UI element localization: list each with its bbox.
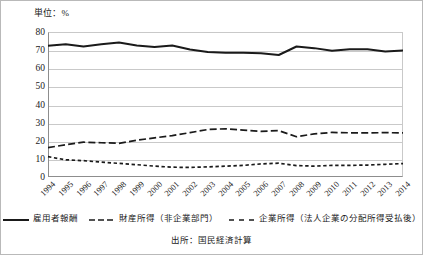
y-tick-label: 20 <box>3 136 45 146</box>
chart-legend: 雇用者報酬財産所得（非企業部門）企業所得（法人企業の分配所得受払後） <box>1 211 422 223</box>
legend-item-3[interactable]: 企業所得（法人企業の分配所得受払後） <box>229 211 421 223</box>
unit-label: 単位：% <box>34 6 69 19</box>
legend-item-2[interactable]: 財産所得（非企業部門） <box>89 211 218 223</box>
x-axis-tick-labels: 1994199519961997199819992000200120022003… <box>48 179 403 209</box>
series-line-3 <box>48 157 403 168</box>
legend-label: 雇用者報酬 <box>33 211 78 223</box>
legend-label: 企業所得（法人企業の分配所得受払後） <box>259 211 421 223</box>
y-tick-label: 80 <box>3 27 45 37</box>
series-line-2 <box>48 129 403 148</box>
series-lines <box>48 32 403 177</box>
series-line-1 <box>48 43 403 56</box>
y-tick-label: 40 <box>3 100 45 110</box>
y-tick-label: 70 <box>3 45 45 55</box>
source-note: 出所：国民経済計算 <box>1 233 422 245</box>
chart-figure: 単位：% 80706050403020100 19941995199619971… <box>0 0 423 255</box>
y-axis-tick-labels: 80706050403020100 <box>1 32 45 177</box>
plot-wrapper <box>48 32 403 177</box>
y-tick-label: 50 <box>3 81 45 91</box>
y-tick-label: 30 <box>3 118 45 128</box>
y-tick-label: 60 <box>3 63 45 73</box>
y-tick-label: 10 <box>3 154 45 164</box>
legend-label: 財産所得（非企業部門） <box>119 211 218 223</box>
legend-item-1[interactable]: 雇用者報酬 <box>3 211 78 223</box>
y-tick-label: 0 <box>3 172 45 182</box>
